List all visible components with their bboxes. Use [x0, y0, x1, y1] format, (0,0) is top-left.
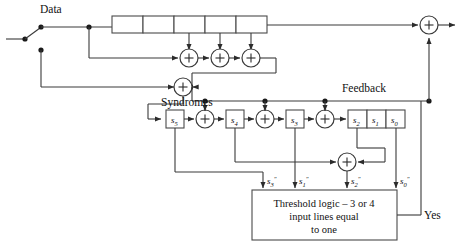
label-feedback: Feedback [342, 82, 386, 94]
threshold-input-labels: s3″ s1″ s2″ s0″ [267, 175, 410, 188]
top-adder-3 [242, 49, 260, 67]
output-adder [420, 16, 455, 34]
tap-s5-to-threshold [175, 128, 263, 188]
data-shift-register [112, 16, 267, 33]
diagram-canvas: Data Feedback Syndromes Yes s5 s4 s3 s2 … [0, 0, 464, 249]
data-input-wire [41, 24, 112, 29]
switch-lower-branch [41, 50, 174, 87]
top-adder-1 [180, 49, 198, 67]
syndrome-adder-1 [196, 110, 214, 128]
threshold-input-label-s3: s3″ [267, 175, 277, 188]
threshold-text-line3: to one [311, 224, 337, 235]
decoder-diagram: Data Feedback Syndromes Yes s5 s4 s3 s2 … [0, 0, 464, 249]
threshold-input-label-s0: s0″ [400, 175, 410, 188]
tap-s2-to-majority-adder [357, 128, 385, 162]
label-data: Data [40, 3, 62, 15]
input-adder [174, 78, 192, 96]
tap-s4-to-majority-adder [235, 128, 336, 162]
syndrome-adder-3 [316, 110, 334, 128]
feedback-taps [202, 98, 431, 111]
label-yes: Yes [424, 209, 441, 221]
threshold-text-line2: input lines equal [289, 211, 358, 222]
top-adder-2 [211, 49, 229, 67]
feedback-wire [192, 87, 429, 101]
top-adder-feedback-wire [187, 58, 276, 87]
syndrome-adder-2 [256, 110, 274, 128]
label-syndromes: Syndromes [161, 96, 213, 109]
input-switch[interactable] [6, 24, 44, 52]
threshold-input-label-s1: s1″ [299, 175, 309, 188]
threshold-text-line1: Threshold logic – 3 or 4 [273, 198, 375, 209]
register-taps [189, 33, 251, 50]
threshold-input-label-s2: s2″ [351, 175, 361, 188]
